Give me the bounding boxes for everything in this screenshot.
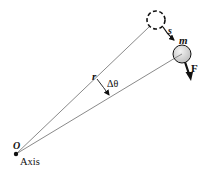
angle-label: Δθ: [107, 78, 118, 89]
origin-label: O: [13, 140, 20, 151]
arc-length-label: s: [167, 25, 172, 36]
axis-label: Axis: [20, 156, 40, 167]
initial-position-circle: [147, 11, 165, 29]
axis-point: [14, 152, 18, 156]
rotation-diagram: r Δθ s m F O Axis: [0, 0, 202, 172]
mass-label: m: [179, 34, 188, 46]
radius-label: r: [92, 70, 97, 82]
radius-line-initial: [16, 27, 149, 154]
force-label: F: [191, 62, 198, 74]
